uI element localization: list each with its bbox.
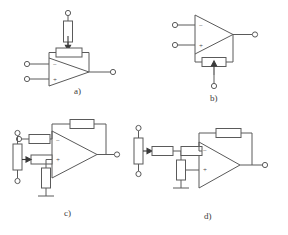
pot-top-terminal-d[interactable] [136, 125, 141, 130]
output-terminal-d[interactable] [262, 162, 267, 167]
bias-potentiometer-c [13, 144, 22, 170]
noninverting-sign-b: + [199, 42, 203, 50]
panel-d: − + d) [134, 125, 268, 221]
noninverting-sign-c: + [56, 156, 60, 164]
shunt-resistor-c [42, 168, 51, 188]
panel-caption-a: a) [74, 86, 81, 96]
inverting-sign-a: − [53, 61, 57, 69]
output-terminal-b[interactable] [252, 32, 257, 37]
inverting-sign-d: − [203, 147, 207, 155]
wiper-arrowhead-d [147, 149, 152, 154]
output-terminal-c[interactable] [114, 152, 119, 157]
feedback-potentiometer-a [56, 48, 82, 57]
feedback-resistor-d [216, 129, 241, 138]
noninverting-sign-d: + [203, 166, 207, 174]
inverting-sign-c: − [56, 137, 60, 145]
bias-potentiometer-d [134, 138, 143, 164]
pot-bottom-terminal-d[interactable] [136, 171, 141, 176]
wiper-arrowhead-c [26, 157, 31, 162]
inverting-input-terminal-b[interactable] [172, 22, 177, 27]
panel-caption-d: d) [204, 211, 212, 221]
output-terminal-a[interactable] [110, 69, 115, 74]
noninverting-sign-a: + [53, 76, 57, 84]
panel-b: − + b) [172, 15, 257, 103]
input-resistor-c [29, 135, 50, 144]
top-terminal-a[interactable] [65, 10, 70, 15]
panel-caption-b: b) [210, 93, 218, 103]
panel-c: − + c) [13, 120, 120, 219]
noninverting-input-terminal-a[interactable] [24, 76, 29, 81]
shunt-resistor-d [177, 160, 186, 180]
wiper-series-resistor-d [152, 147, 173, 156]
pot-bottom-terminal-c[interactable] [15, 178, 20, 183]
inverting-input-terminal-a[interactable] [24, 61, 29, 66]
feedback-resistor-c [70, 120, 94, 129]
panel-a: − + a) [24, 10, 115, 96]
panel-caption-c: c) [64, 208, 71, 218]
inverting-sign-b: − [199, 22, 203, 30]
bottom-terminal-b[interactable] [211, 83, 216, 88]
noninverting-input-terminal-b[interactable] [172, 42, 177, 47]
pot-top-terminal-c[interactable] [15, 130, 20, 135]
schematic-canvas: − + a) − + b) [0, 0, 288, 235]
schematic-sheet: − + a) − + b) [0, 0, 288, 235]
